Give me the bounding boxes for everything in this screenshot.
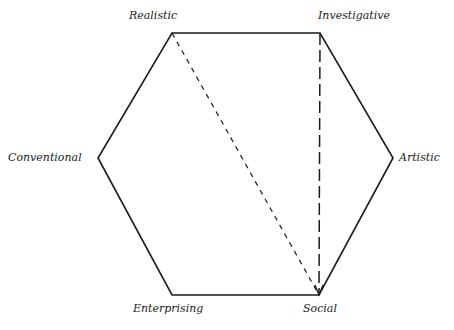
hexagon-diagram — [0, 0, 454, 330]
label-social: Social — [303, 302, 337, 315]
label-investigative: Investigative — [318, 9, 390, 22]
label-enterprising: Enterprising — [133, 302, 203, 315]
investigative-social-dashed-line — [319, 33, 320, 293]
realistic-social-dashed-line — [172, 33, 319, 295]
label-realistic: Realistic — [129, 9, 177, 22]
label-artistic: Artistic — [399, 151, 440, 164]
label-conventional: Conventional — [8, 151, 82, 164]
